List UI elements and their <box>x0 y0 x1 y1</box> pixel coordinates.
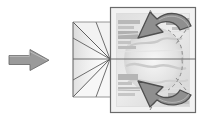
diagram-canvas <box>0 0 203 119</box>
figure-root: A gray block arrow points right toward a… <box>0 0 203 119</box>
projection-cone <box>73 22 110 97</box>
